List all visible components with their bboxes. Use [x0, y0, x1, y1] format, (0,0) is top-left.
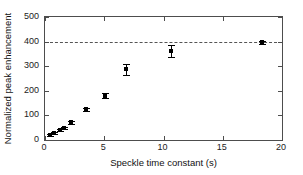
plot-inner [45, 17, 282, 140]
y-tick-label: 100 [14, 109, 39, 119]
x-axis-tick-top [282, 17, 283, 21]
data-marker [52, 131, 56, 135]
x-axis-tick-top [223, 17, 224, 21]
y-axis-tick-right [278, 91, 282, 92]
y-tick-label: 200 [14, 85, 39, 95]
asymptote-line [45, 42, 282, 43]
x-axis-tick [104, 136, 105, 140]
x-axis-tick-top [104, 17, 105, 21]
y-tick-label: 400 [14, 36, 39, 46]
error-bar-cap-upper [123, 64, 130, 65]
data-marker [62, 126, 66, 130]
y-tick-label: 300 [14, 60, 39, 70]
plot-area [44, 16, 283, 141]
y-axis-tick-right [278, 17, 282, 18]
y-axis-tick-right [278, 42, 282, 43]
y-axis-tick [45, 17, 49, 18]
y-axis-tick [45, 140, 49, 141]
y-tick-label: 500 [14, 11, 39, 21]
y-axis-tick [45, 42, 49, 43]
x-axis-tick-top [164, 17, 165, 21]
y-axis-tick [45, 91, 49, 92]
y-axis-tick-right [278, 66, 282, 67]
x-axis-tick [223, 136, 224, 140]
data-marker [103, 94, 107, 98]
error-bar-cap-lower [102, 98, 109, 99]
x-tick-label: 5 [101, 142, 106, 152]
x-axis-title: Speckle time constant (s) [44, 157, 283, 168]
y-axis-title: Normalized peak enhancement [2, 16, 14, 141]
y-axis-tick-right [278, 115, 282, 116]
x-tick-label: 0 [41, 142, 46, 152]
x-axis-tick [282, 136, 283, 140]
error-bar-cap-lower [123, 75, 130, 76]
error-bar-cap-lower [168, 57, 175, 58]
x-tick-label: 10 [157, 142, 167, 152]
data-marker [124, 67, 128, 71]
x-tick-label: 20 [276, 142, 286, 152]
figure: Normalized peak enhancement Speckle time… [0, 0, 303, 175]
y-tick-label: 0 [14, 134, 39, 144]
error-bar-cap-upper [168, 45, 175, 46]
data-marker [69, 120, 73, 124]
y-axis-tick [45, 115, 49, 116]
data-marker [169, 49, 173, 53]
y-axis-tick [45, 66, 49, 67]
data-marker [260, 40, 264, 44]
x-axis-tick [164, 136, 165, 140]
y-axis-title-text: Normalized peak enhancement [3, 13, 14, 145]
x-tick-label: 15 [217, 142, 227, 152]
y-axis-tick-right [278, 140, 282, 141]
data-marker [84, 107, 88, 111]
